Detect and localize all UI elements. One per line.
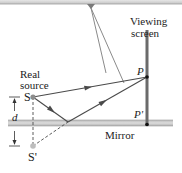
point-p-dot [145, 75, 149, 79]
arrow-down-icon [13, 140, 17, 145]
lloyds-mirror-diagram: Viewing screen Real source S S' P P' d M… [0, 0, 182, 173]
point-p-prime-label: P' [134, 109, 143, 120]
viewing-screen-label-line2: screen [131, 28, 159, 39]
real-source-dot [30, 94, 35, 99]
top-bar [0, 0, 182, 4]
incident-ray [33, 97, 68, 122]
image-source-dot [30, 143, 36, 149]
distance-d-label: d [12, 112, 18, 123]
arrow-icon [99, 100, 108, 107]
source-s-label: S [24, 92, 31, 103]
point-p-prime-dot [145, 123, 149, 127]
point-p-label: P [137, 66, 144, 77]
viewing-screen-label-line1: Viewing [130, 16, 167, 27]
arrow-icon [47, 106, 55, 113]
arrow-up-icon [13, 98, 17, 103]
lamp-support-lines [91, 8, 124, 83]
image-source-label: S' [28, 152, 37, 163]
mirror-label: Mirror [105, 130, 134, 141]
